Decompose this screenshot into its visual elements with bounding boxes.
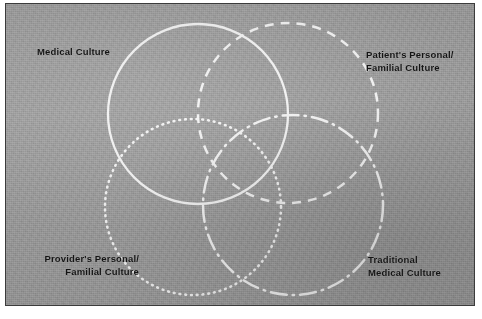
diagram-plate: Medical Culture Patient's Personal/ Fami… [5,3,475,306]
figure-container: Medical Culture Patient's Personal/ Fami… [0,0,482,319]
label-patient-culture: Patient's Personal/ Familial Culture [366,49,453,74]
circle-medical-culture [108,24,288,204]
label-provider-culture: Provider's Personal/ Familial Culture [8,253,139,278]
label-traditional-culture: Traditional Medical Culture [368,254,441,279]
circle-traditional-culture [203,115,383,295]
label-medical-culture: Medical Culture [37,46,110,59]
